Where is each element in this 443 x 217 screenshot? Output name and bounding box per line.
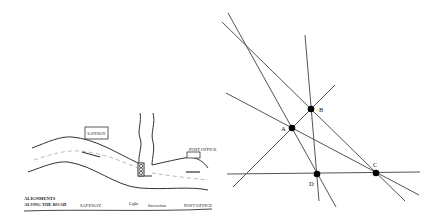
safeway-sign-label: SAFEWAY (87, 131, 106, 136)
point-d (314, 171, 321, 178)
align-post-office-label: POST OFFICE (184, 203, 212, 208)
point-c (373, 170, 380, 177)
alignments-label-line2: ALONG THE ROAD (24, 202, 67, 207)
upper-right-road-edge (152, 157, 208, 168)
traffic-light-icon (138, 163, 144, 176)
point-b (308, 106, 315, 113)
lower-road-edge (28, 162, 208, 190)
point-c-label: C (373, 161, 377, 168)
side-street-left-edge (139, 113, 141, 163)
point-a-label: A (281, 125, 286, 132)
alignments-label-line1: ALIGNMENTS (24, 196, 56, 201)
upper-road-edge (32, 137, 138, 163)
figure: SAFEWAY POST OFFICE ALIGNMENTS ALONG THE… (0, 0, 443, 217)
alignment-baseline (24, 209, 212, 211)
road-map: SAFEWAY POST OFFICE ALIGNMENTS ALONG THE… (24, 113, 217, 211)
side-street-right-edge (152, 113, 154, 165)
align-intersection-label: Intersection (148, 204, 166, 208)
post-office-label: POST OFFICE (189, 147, 217, 152)
line-through-a-b (233, 85, 335, 187)
post-office-box (187, 152, 200, 158)
line-through-d-c (227, 172, 420, 174)
align-light-label: Light (129, 201, 139, 206)
geometry-diagram: A B C D (222, 13, 420, 207)
align-safeway-label: SAFEWAY (80, 203, 102, 208)
point-a (289, 125, 296, 132)
center-dashed-line-right (152, 173, 208, 180)
point-b-label: B (319, 106, 324, 113)
point-d-label: D (309, 180, 314, 187)
